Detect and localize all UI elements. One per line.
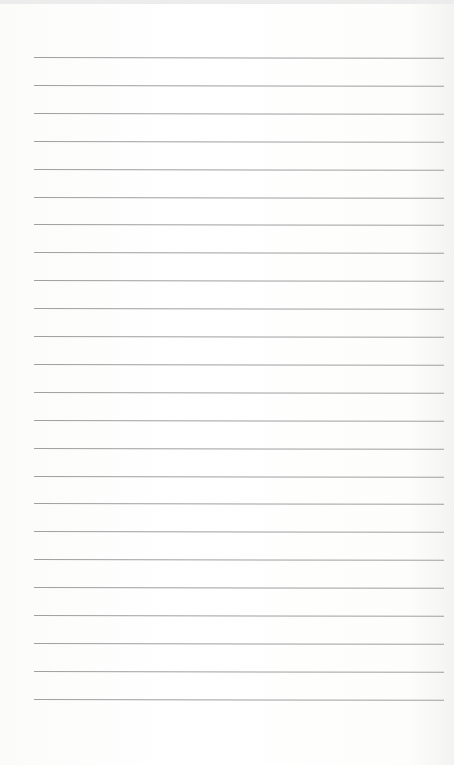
- lined-paper-page: [0, 0, 454, 765]
- ruled-line: [34, 336, 444, 338]
- ruled-line: [34, 224, 444, 226]
- ruled-line: [34, 699, 444, 701]
- ruled-line: [34, 197, 444, 199]
- ruled-line: [34, 113, 444, 115]
- ruled-line: [34, 476, 444, 478]
- ruled-line: [34, 57, 444, 59]
- ruled-line: [34, 559, 444, 561]
- ruled-line: [34, 252, 444, 254]
- ruled-line: [34, 392, 444, 394]
- ruled-line: [34, 141, 444, 143]
- ruled-line: [34, 587, 444, 589]
- ruled-line: [34, 531, 444, 533]
- ruled-line: [34, 280, 444, 282]
- ruled-line: [34, 169, 444, 171]
- ruled-line: [34, 503, 444, 505]
- ruled-line: [34, 85, 444, 87]
- ruled-line: [34, 615, 444, 617]
- ruled-line: [34, 671, 444, 673]
- ruled-line: [34, 420, 444, 422]
- ruled-line: [34, 364, 444, 366]
- ruled-line: [34, 643, 444, 645]
- page-top-edge: [0, 0, 454, 4]
- ruled-line: [34, 448, 444, 450]
- ruled-line: [34, 308, 444, 310]
